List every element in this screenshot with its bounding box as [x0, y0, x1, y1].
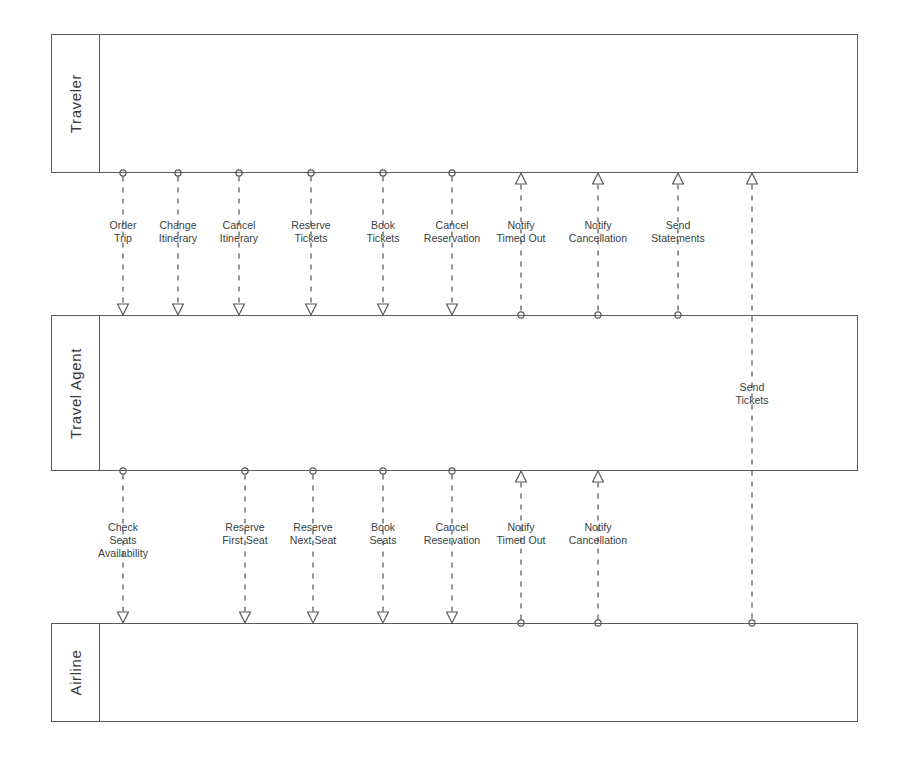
msg-label-reserve-next-seat-hit[interactable] — [274, 517, 352, 561]
msg-arrowhead-cancel-reservation — [447, 304, 458, 315]
msg-label-notify-cancellation-hit[interactable] — [559, 215, 637, 259]
lane-header-travelagent: Travel Agent — [52, 316, 100, 470]
msg-label-notify-timed-out-air-hit[interactable] — [482, 517, 560, 561]
msg-label-reserve-tickets-hit[interactable] — [272, 215, 350, 259]
msg-arrowhead-notify-cancellation — [593, 173, 604, 184]
msg-arrowhead-notify-cancellation-air — [593, 471, 604, 482]
msg-arrowhead-send-tickets — [747, 173, 758, 184]
msg-arrowhead-reserve-first-seat — [240, 612, 251, 623]
lane-airline: Airline — [51, 623, 858, 722]
msg-label-notify-cancellation-air-hit[interactable] — [559, 517, 637, 561]
msg-label-cancel-itinerary-hit[interactable] — [200, 215, 278, 259]
msg-arrowhead-reserve-tickets — [306, 304, 317, 315]
msg-label-check-seats-availability-hit[interactable] — [84, 517, 162, 561]
msg-label-notify-timed-out-hit[interactable] — [482, 215, 560, 259]
msg-arrowhead-check-seats-availability — [118, 612, 129, 623]
msg-label-cancel-reservation-hit[interactable] — [413, 215, 491, 259]
msg-arrowhead-book-tickets — [378, 304, 389, 315]
msg-arrowhead-cancel-reservation-air — [447, 612, 458, 623]
diagram-canvas: TravelerTravel AgentAirlineOrder TripCha… — [0, 0, 904, 767]
msg-arrowhead-send-statements — [673, 173, 684, 184]
msg-arrowhead-notify-timed-out-air — [516, 471, 527, 482]
lane-traveler: Traveler — [51, 34, 858, 173]
lane-header-traveler: Traveler — [52, 35, 100, 172]
msg-label-reserve-first-seat-hit[interactable] — [206, 517, 284, 561]
msg-arrowhead-reserve-next-seat — [308, 612, 319, 623]
lane-title-traveler: Traveler — [67, 74, 84, 133]
lane-header-airline: Airline — [52, 624, 100, 721]
msg-label-cancel-reservation-air-hit[interactable] — [413, 517, 491, 561]
msg-arrowhead-book-seats — [378, 612, 389, 623]
msg-arrowhead-order-trip — [118, 304, 129, 315]
lane-title-airline: Airline — [67, 650, 84, 696]
msg-label-send-statements-hit[interactable] — [639, 215, 717, 259]
msg-arrowhead-notify-timed-out — [516, 173, 527, 184]
lane-title-travelagent: Travel Agent — [67, 348, 84, 439]
msg-arrowhead-cancel-itinerary — [234, 304, 245, 315]
msg-arrowhead-change-itinerary — [173, 304, 184, 315]
msg-label-book-seats-hit[interactable] — [344, 517, 422, 561]
msg-label-send-tickets-hit[interactable] — [713, 377, 791, 421]
msg-label-book-tickets-hit[interactable] — [344, 215, 422, 259]
